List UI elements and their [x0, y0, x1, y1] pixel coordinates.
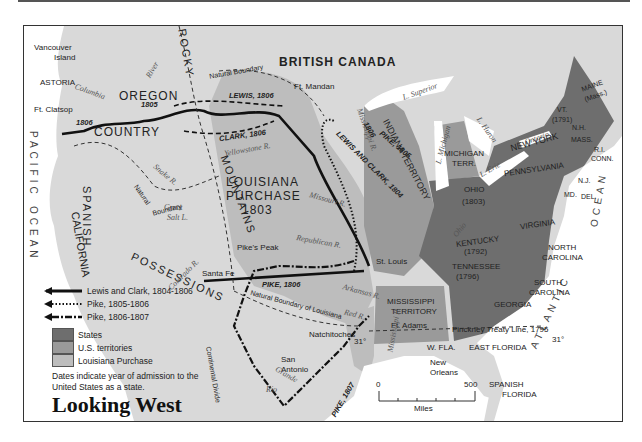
- map-frame: BRITISH CANADA OREGON COUNTRY LOUISIANA …: [23, 25, 623, 422]
- label-pinckney-treaty-line: Pinckney Treaty Line, 1795: [452, 326, 549, 334]
- territories-swatch: [52, 341, 74, 354]
- label-route-1805: 1805: [141, 101, 158, 109]
- legend-area-label: U.S. territories: [78, 343, 132, 353]
- legend-route-label: Lewis and Clark, 1804-1806: [87, 286, 193, 296]
- label-rio: Rio: [266, 386, 277, 394]
- scale-unit: Miles: [414, 405, 433, 413]
- label-md: MD.: [564, 191, 577, 198]
- label-north-carolina-1: NORTH: [548, 244, 576, 252]
- label-new-orleans-1: New: [430, 359, 446, 367]
- label-pikes-peak: Pike's Peak: [237, 244, 279, 252]
- label-ohio-year: (1803): [462, 198, 485, 206]
- label-michigan-terr-1: MICHIGAN: [444, 150, 484, 158]
- label-ri: R.I.: [594, 146, 605, 153]
- label-route-1806-oregon: 1806: [76, 119, 93, 127]
- dash-dot-arrow-icon: [44, 313, 84, 321]
- top-rule: [18, 0, 630, 2]
- scale-ruler: [378, 391, 478, 403]
- legend-area-label: Louisiana Purchase: [78, 356, 153, 366]
- legend-route-label: Pike, 1806-1807: [87, 312, 149, 322]
- states-swatch: [52, 328, 74, 341]
- legend-route-pike-1806: Pike, 1806-1807: [44, 312, 149, 322]
- label-spanish-florida-1: SPANISH: [489, 381, 524, 389]
- label-new-orleans-2: Orleans: [430, 369, 458, 377]
- label-great-salt-2: Salt L.: [167, 214, 188, 222]
- legend-route-lewis-clark: Lewis and Clark, 1804-1806: [44, 286, 193, 296]
- label-st-louis: St. Louis: [376, 258, 407, 266]
- label-tennessee: TENNESSEE: [452, 263, 500, 271]
- label-vt-year: (1791): [552, 116, 572, 123]
- label-south-carolina-2: CAROLINA: [529, 289, 570, 297]
- solid-arrow-icon: [44, 287, 84, 295]
- label-georgia: GEORGIA: [494, 301, 531, 309]
- label-lat-31-east: 31°: [552, 336, 564, 344]
- legend-note: Dates indicate year of admission to the …: [52, 371, 217, 393]
- label-ohio: OHIO: [464, 186, 484, 194]
- label-pike-1806: PIKE, 1806: [262, 281, 300, 289]
- label-west-florida: W. FLA.: [427, 344, 455, 352]
- label-del: DEL.: [581, 193, 597, 200]
- legend-area-territories: U.S. territories: [52, 341, 132, 354]
- label-ft-mandan: Ft. Mandan: [294, 83, 334, 91]
- label-mass: MASS.: [571, 136, 593, 143]
- scale-start: 0: [376, 381, 380, 389]
- label-astoria: ASTORIA: [40, 79, 75, 87]
- label-lewis-1806: LEWIS, 1806: [229, 92, 274, 100]
- label-ft-clatsop: Ft. Clatsop: [34, 106, 73, 114]
- natural-boundary-west: [74, 142, 219, 190]
- label-kentucky-year: (1792): [464, 248, 487, 256]
- label-san-antonio-1: San: [281, 356, 295, 364]
- scale-end: 500: [464, 381, 477, 389]
- label-south-carolina-1: SOUTH: [534, 279, 562, 287]
- label-conn: CONN.: [591, 155, 614, 162]
- label-spanish-florida-2: FLORIDA: [502, 391, 537, 399]
- louisiana-swatch: [52, 354, 74, 367]
- legend-route-pike-1805: Pike, 1805-1806: [44, 299, 149, 309]
- legend-area-label: States: [78, 330, 102, 340]
- label-east-florida: EAST FLORIDA: [469, 344, 527, 352]
- legend-route-label: Pike, 1805-1806: [87, 299, 149, 309]
- dotted-arrow-icon: [44, 300, 84, 308]
- label-pacific: PACIFIC: [28, 131, 38, 198]
- label-michigan-terr-2: TERR.: [452, 160, 476, 168]
- label-vancouver-2: Island: [54, 54, 75, 62]
- label-ocean-west: OCEAN: [28, 206, 38, 262]
- map-title: Looking West: [52, 394, 182, 416]
- label-lat-31-west: 31°: [354, 338, 366, 346]
- legend-area-states: States: [52, 328, 102, 341]
- label-british-canada: BRITISH CANADA: [279, 56, 396, 68]
- label-natchitoches: Natchitoches: [309, 331, 355, 339]
- label-north-carolina-2: CAROLINA: [542, 254, 583, 262]
- label-nh: N.H.: [572, 124, 586, 131]
- label-vancouver-1: Vancouver: [34, 44, 72, 52]
- label-vt: VT.: [557, 106, 567, 113]
- label-mississippi-territory-1: MISSISSIPPI: [387, 298, 435, 306]
- label-country: COUNTRY: [94, 126, 160, 138]
- label-tennessee-year: (1796): [456, 273, 479, 281]
- legend-area-louisiana: Louisiana Purchase: [52, 354, 153, 367]
- label-santa-fe: Santa Fe: [202, 270, 234, 278]
- label-nj: N.J.: [578, 177, 590, 184]
